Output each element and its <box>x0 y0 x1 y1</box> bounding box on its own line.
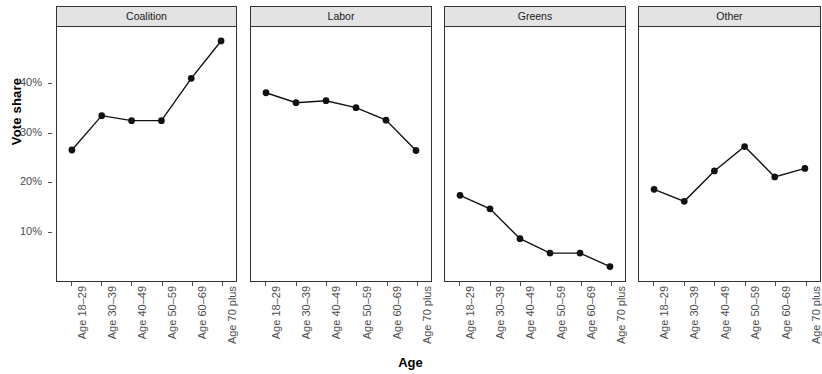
y-axis-tick-label: 40% <box>0 77 42 88</box>
x-axis-tick-label: Age 30–39 <box>688 286 700 339</box>
x-axis-tick-mark <box>775 282 776 286</box>
facet-strip: Greens <box>444 6 626 27</box>
x-axis-tick-mark <box>71 282 72 286</box>
data-point <box>681 198 688 205</box>
x-axis-tick-mark <box>326 282 327 286</box>
x-axis-tick-mark <box>265 282 266 286</box>
x-axis-tick-label: Age 70 plus <box>421 286 433 344</box>
data-point <box>741 143 748 150</box>
plot-area <box>250 27 432 282</box>
facet-strip-label: Other <box>716 11 742 22</box>
y-axis-tick-mark <box>48 83 52 84</box>
x-axis-tick-label: Age 40–49 <box>136 286 148 339</box>
y-axis-tick-label: 20% <box>0 176 42 187</box>
facet-panel-labor: Labor <box>250 6 432 282</box>
y-axis-tick-label: 10% <box>0 226 42 237</box>
x-axis-tick-mark <box>653 282 654 286</box>
x-axis-tick-mark <box>162 282 163 286</box>
plot-area <box>56 27 237 282</box>
x-axis-tick-mark <box>459 282 460 286</box>
facet-panel-greens: Greens <box>444 6 626 282</box>
x-axis-tick-label: Age 60–69 <box>585 286 597 339</box>
x-axis-tick-label: Age 40–49 <box>719 286 731 339</box>
x-axis-tick-label: Age 18–29 <box>658 286 670 339</box>
facet-strip-label: Coalition <box>126 11 167 22</box>
x-axis-tick-mark <box>192 282 193 286</box>
x-axis-tick-label: Age 60–69 <box>391 286 403 339</box>
x-axis-tick-mark <box>296 282 297 286</box>
x-axis-tick-mark <box>684 282 685 286</box>
series-line <box>266 93 416 151</box>
facet-strip-label: Labor <box>328 11 355 22</box>
data-point <box>802 165 809 172</box>
data-point <box>158 117 165 124</box>
data-point <box>547 250 554 257</box>
data-point <box>711 168 718 175</box>
data-point <box>218 38 225 45</box>
data-point <box>98 112 105 119</box>
x-axis-tick-label: Age 50–59 <box>749 286 761 339</box>
x-axis-tick-label: Age 50–59 <box>166 286 178 339</box>
x-axis-tick-label: Age 18–29 <box>464 286 476 339</box>
data-point <box>293 99 300 106</box>
facet-strip-label: Greens <box>518 11 552 22</box>
x-axis-tick-mark <box>356 282 357 286</box>
x-axis-tick-label: Age 70 plus <box>810 286 822 344</box>
x-axis-tick-mark <box>131 282 132 286</box>
x-axis-tick-label: Age 70 plus <box>615 286 627 344</box>
data-point <box>457 192 464 199</box>
facet-strip: Other <box>638 6 821 27</box>
x-axis-tick-mark <box>520 282 521 286</box>
x-axis-tick-label: Age 18–29 <box>270 286 282 339</box>
series-line <box>72 41 221 150</box>
y-axis-title: Vote share <box>9 52 24 172</box>
x-axis-tick-mark <box>417 282 418 286</box>
data-point <box>413 147 420 154</box>
x-axis-tick-label: Age 50–59 <box>555 286 567 339</box>
x-axis-title: Age <box>0 355 821 370</box>
y-axis-tick-label: 30% <box>0 127 42 138</box>
x-axis-tick-mark <box>714 282 715 286</box>
data-point <box>128 117 135 124</box>
x-axis-tick-mark <box>222 282 223 286</box>
x-axis-tick-label: Age 30–39 <box>106 286 118 339</box>
data-point <box>188 75 195 82</box>
x-axis-tick-mark <box>806 282 807 286</box>
plot-area <box>638 27 821 282</box>
facet-strip: Labor <box>250 6 432 27</box>
facet-strip: Coalition <box>56 6 237 27</box>
data-point <box>651 186 658 193</box>
x-axis-tick-label: Age 50–59 <box>361 286 373 339</box>
x-axis-tick-mark <box>611 282 612 286</box>
plot-area <box>444 27 626 282</box>
x-axis-tick-mark <box>490 282 491 286</box>
x-axis-tick-label: Age 40–49 <box>524 286 536 339</box>
facet-panel-other: Other <box>638 6 821 282</box>
data-point <box>69 147 76 154</box>
x-axis-tick-label: Age 18–29 <box>76 286 88 339</box>
data-point <box>263 89 270 96</box>
data-point <box>383 117 390 124</box>
data-point <box>607 263 614 270</box>
x-axis-tick-label: Age 60–69 <box>780 286 792 339</box>
y-axis-tick-mark <box>48 182 52 183</box>
data-point <box>771 174 778 181</box>
series-line <box>654 147 805 202</box>
x-axis-tick-label: Age 70 plus <box>226 286 238 344</box>
data-point <box>323 97 330 104</box>
x-axis-tick-mark <box>101 282 102 286</box>
data-point <box>487 205 494 212</box>
x-axis-tick-mark <box>550 282 551 286</box>
y-axis-tick-mark <box>48 133 52 134</box>
x-axis-tick-label: Age 30–39 <box>494 286 506 339</box>
x-axis-tick-label: Age 40–49 <box>330 286 342 339</box>
x-axis-tick-mark <box>387 282 388 286</box>
y-axis-tick-mark <box>48 232 52 233</box>
x-axis-tick-label: Age 30–39 <box>300 286 312 339</box>
x-axis-tick-label: Age 60–69 <box>196 286 208 339</box>
series-line <box>460 195 610 266</box>
facet-panel-coalition: Coalition <box>56 6 237 282</box>
data-point <box>577 250 584 257</box>
data-point <box>517 235 524 242</box>
